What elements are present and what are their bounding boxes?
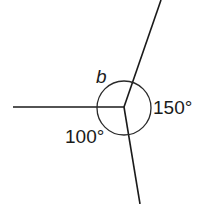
angle-label-100: 100° [65, 127, 104, 146]
upper-ray [124, 0, 161, 107]
angle-label-150: 150° [153, 98, 192, 117]
angle-label-b: b [96, 67, 107, 86]
lower-ray [124, 107, 140, 204]
